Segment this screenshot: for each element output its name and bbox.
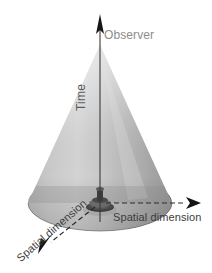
spatial-axis-diagonal-arrow [38,234,52,254]
light-cone-canvas [0,0,212,273]
light-cone-figure: Observer Time Spatial dimension Spatial … [0,0,212,273]
spatial-axis-horizontal-arrow [186,197,201,209]
